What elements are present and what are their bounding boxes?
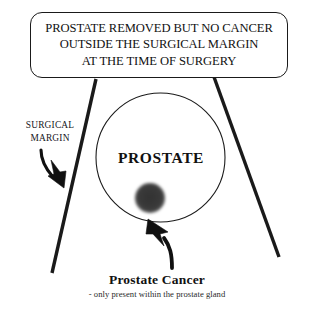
prostate-cancer-caption-heading: Prostate Cancer xyxy=(37,272,277,288)
diagram-canvas: PROSTATE REMOVED BUT NO CANCER OUTSIDE T… xyxy=(0,0,314,315)
title-line-1: PROSTATE REMOVED BUT NO CANCER xyxy=(45,20,272,37)
title-line-2: OUTSIDE THE SURGICAL MARGIN xyxy=(60,36,258,53)
title-callout-box: PROSTATE REMOVED BUT NO CANCER OUTSIDE T… xyxy=(30,12,288,78)
surgical-margin-arrow xyxy=(41,150,66,188)
surgical-margin-label-line1: SURGICAL xyxy=(8,119,92,132)
prostate-cancer-arrow xyxy=(146,219,172,268)
tumor-blob-icon xyxy=(135,183,165,213)
prostate-cancer-caption-subtext: - only present within the prostate gland xyxy=(37,289,277,299)
surgical-margin-label-line2: MARGIN xyxy=(8,132,92,145)
prostate-cancer-caption: Prostate Cancer - only present within th… xyxy=(37,272,277,299)
prostate-label: PROSTATE xyxy=(96,149,226,167)
title-line-3: AT THE TIME OF SURGERY xyxy=(82,53,237,70)
surgical-margin-label: SURGICAL MARGIN xyxy=(8,119,92,145)
